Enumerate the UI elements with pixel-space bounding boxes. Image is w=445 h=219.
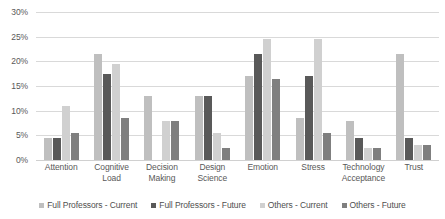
bar[interactable] xyxy=(171,121,179,160)
bar[interactable] xyxy=(423,145,431,160)
y-tick-label: 15% xyxy=(11,82,28,91)
bar-group xyxy=(137,12,187,160)
legend-label: Full Professors - Future xyxy=(159,201,245,210)
bar-group xyxy=(389,12,439,160)
y-tick-label: 20% xyxy=(11,57,28,66)
legend-swatch-icon xyxy=(151,203,156,208)
bar[interactable] xyxy=(414,145,422,160)
axis-baseline xyxy=(36,160,439,161)
legend-swatch-icon xyxy=(260,203,265,208)
bar[interactable] xyxy=(323,133,331,160)
bar[interactable] xyxy=(263,39,271,160)
bar-group xyxy=(288,12,338,160)
bar[interactable] xyxy=(296,118,304,160)
legend-swatch-icon xyxy=(342,203,347,208)
y-axis: 0%5%10%15%20%25%30% xyxy=(0,12,32,160)
y-tick-label: 0% xyxy=(16,156,28,165)
bar[interactable] xyxy=(245,76,253,160)
plot-area xyxy=(36,12,439,160)
bar[interactable] xyxy=(121,118,129,160)
bar[interactable] xyxy=(162,121,170,160)
bar[interactable] xyxy=(314,39,322,160)
bar[interactable] xyxy=(195,96,203,160)
bar-group xyxy=(86,12,136,160)
legend-swatch-icon xyxy=(39,203,44,208)
bar[interactable] xyxy=(62,106,70,160)
legend-label: Others - Future xyxy=(350,201,406,210)
x-category-label: DecisionMaking xyxy=(137,162,187,196)
bar[interactable] xyxy=(44,138,52,160)
bar-groups xyxy=(36,12,439,160)
x-category-label: TechnologyAcceptance xyxy=(338,162,388,196)
bar[interactable] xyxy=(373,148,381,160)
x-category-label: Trust xyxy=(389,162,439,196)
y-tick-label: 25% xyxy=(11,32,28,41)
bar[interactable] xyxy=(103,74,111,160)
x-category-label: Attention xyxy=(36,162,86,196)
legend-label: Full Professors - Current xyxy=(47,201,137,210)
bar[interactable] xyxy=(204,96,212,160)
bar[interactable] xyxy=(222,148,230,160)
x-axis: AttentionCognitiveLoadDecisionMakingDesi… xyxy=(36,162,439,196)
bar[interactable] xyxy=(254,54,262,160)
legend-item[interactable]: Others - Current xyxy=(260,201,328,210)
y-tick-label: 30% xyxy=(11,8,28,17)
bar[interactable] xyxy=(346,121,354,160)
legend-item[interactable]: Others - Future xyxy=(342,201,406,210)
x-category-label: CognitiveLoad xyxy=(86,162,136,196)
bar[interactable] xyxy=(305,76,313,160)
bar-group xyxy=(36,12,86,160)
bar[interactable] xyxy=(396,54,404,160)
bar-chart: 0%5%10%15%20%25%30% AttentionCognitiveLo… xyxy=(0,0,445,219)
bar[interactable] xyxy=(405,138,413,160)
chart-legend: Full Professors - CurrentFull Professors… xyxy=(0,198,445,212)
bar[interactable] xyxy=(213,133,221,160)
x-category-label: DesignScience xyxy=(187,162,237,196)
bar[interactable] xyxy=(112,64,120,160)
bar[interactable] xyxy=(71,133,79,160)
legend-item[interactable]: Full Professors - Future xyxy=(151,201,245,210)
bar-group xyxy=(238,12,288,160)
bar-group xyxy=(338,12,388,160)
bar[interactable] xyxy=(53,138,61,160)
x-category-label: Stress xyxy=(288,162,338,196)
bar[interactable] xyxy=(272,79,280,160)
bar[interactable] xyxy=(144,96,152,160)
bar-group xyxy=(187,12,237,160)
legend-item[interactable]: Full Professors - Current xyxy=(39,201,137,210)
bar[interactable] xyxy=(94,54,102,160)
y-tick-label: 5% xyxy=(16,131,28,140)
legend-label: Others - Current xyxy=(268,201,328,210)
y-tick-label: 10% xyxy=(11,106,28,115)
bar[interactable] xyxy=(355,138,363,160)
bar[interactable] xyxy=(364,148,372,160)
x-category-label: Emotion xyxy=(238,162,288,196)
